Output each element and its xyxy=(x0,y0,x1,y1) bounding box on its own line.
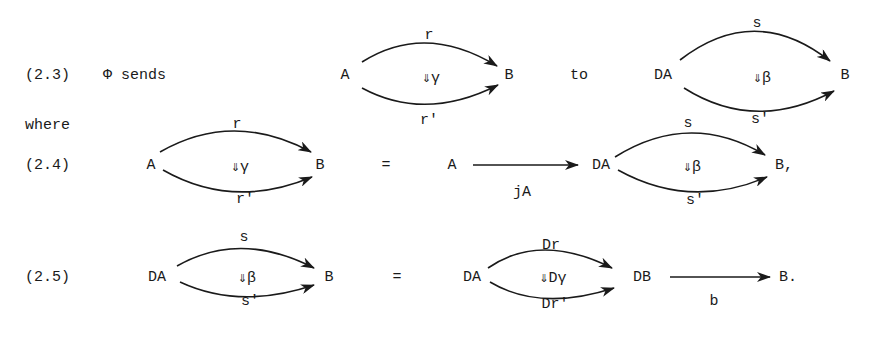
two-cell-D-gamma: ⇓Dγ xyxy=(539,271,566,286)
equals-sign: = xyxy=(381,158,390,173)
arrow-label-Dr-prime: Dr' xyxy=(541,297,568,312)
equation-number: (2.5) xyxy=(25,270,70,285)
object-B-comma: B, xyxy=(775,158,793,173)
two-cell-beta: ⇓β xyxy=(683,160,701,175)
arrow-label-s: s xyxy=(239,230,248,245)
object-DA: DA xyxy=(592,158,610,173)
equation-number: (2.4) xyxy=(25,158,70,173)
to-text: to xyxy=(570,68,588,83)
object-DB: DB xyxy=(633,270,651,285)
arrow-r-prime xyxy=(362,85,498,104)
object-B: B xyxy=(315,158,324,173)
object-DA: DA xyxy=(654,68,672,83)
object-A: A xyxy=(340,68,349,83)
diagram-arrows xyxy=(0,0,887,343)
arrow-label-b: b xyxy=(709,294,718,309)
two-cell-beta: ⇓β xyxy=(238,271,256,286)
arrow-label-r-prime: r' xyxy=(420,113,438,128)
arrow-label-s-prime: s' xyxy=(686,193,704,208)
arrow-label-s-prime: s' xyxy=(241,294,259,309)
where-text: where xyxy=(25,118,70,133)
two-cell-gamma: ⇓γ xyxy=(422,71,440,86)
arrow-label-s-prime: s' xyxy=(751,112,769,127)
arrow-label-Dr: Dr xyxy=(542,238,560,253)
object-B: B xyxy=(504,68,513,83)
object-DA: DA xyxy=(463,270,481,285)
object-B-period: B. xyxy=(779,270,797,285)
arrow-label-s: s xyxy=(683,116,692,131)
phi-sends-text: Φ sends xyxy=(103,68,166,83)
object-B: B xyxy=(840,68,849,83)
arrow-label-r-prime: r' xyxy=(236,192,254,207)
arrow-r xyxy=(160,131,311,152)
object-A: A xyxy=(146,158,155,173)
object-DA: DA xyxy=(148,270,166,285)
object-A: A xyxy=(447,158,456,173)
arrow-s xyxy=(615,133,765,157)
arrow-label-r: r xyxy=(424,28,433,43)
equals-sign: = xyxy=(392,270,401,285)
arrow-label-jA: jA xyxy=(513,185,531,200)
arrow-label-r: r xyxy=(232,117,241,132)
arrow-s xyxy=(177,248,314,268)
arrow-label-s: s xyxy=(752,16,761,31)
object-B: B xyxy=(324,270,333,285)
arrow-r xyxy=(362,43,497,66)
two-cell-beta: ⇓β xyxy=(753,71,771,86)
arrow-s-prime xyxy=(684,88,834,111)
equation-number: (2.3) xyxy=(25,68,70,83)
arrow-s xyxy=(680,31,830,61)
two-cell-gamma: ⇓γ xyxy=(231,160,249,175)
